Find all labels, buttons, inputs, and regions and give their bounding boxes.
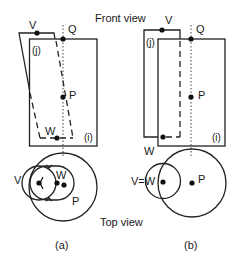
caption-a: (a) [55, 239, 68, 251]
point-q-a [60, 36, 65, 41]
label-body-i-b: (i) [212, 132, 221, 143]
point-v-b [159, 27, 164, 32]
top-point-p-b [189, 180, 194, 185]
body-j-a [19, 33, 73, 138]
top-point-p-a [61, 182, 66, 187]
top-view-label: Top view [100, 216, 143, 228]
point-p-b [188, 94, 193, 99]
top-view-a: V W P [14, 153, 97, 221]
contact-diagram: Front view Top view V Q P W (j) (i) [0, 0, 235, 268]
top-view-b: V=W P [131, 149, 226, 217]
top-point-vw-b [160, 179, 165, 184]
top-label-p-b: P [198, 173, 205, 185]
label-body-j-a: (j) [32, 45, 41, 56]
top-point-w-a [54, 180, 59, 185]
label-body-i-a: (i) [84, 132, 93, 143]
label-body-j-b: (j) [146, 37, 155, 48]
label-p-a: P [69, 89, 76, 101]
label-q-a: Q [68, 23, 77, 35]
panel-b: V Q P W (j) (i) V=W P (b) [131, 14, 226, 251]
point-v-a [34, 30, 39, 35]
point-q-b [188, 36, 193, 41]
top-label-w-a: W [56, 169, 67, 181]
label-v-a: V [29, 19, 37, 31]
label-p-b: P [198, 89, 205, 101]
point-p-a [60, 94, 65, 99]
point-w-b [160, 134, 165, 139]
label-q-b: Q [196, 23, 205, 35]
label-w-a: W [45, 125, 56, 137]
label-w-b: W [144, 145, 155, 157]
caption-b: (b) [184, 239, 197, 251]
panel-a: V Q P W (j) (i) V W P (a) [14, 19, 97, 251]
top-point-v-a [36, 180, 41, 185]
top-label-v-a: V [14, 174, 22, 186]
top-label-p-a: P [72, 195, 79, 207]
top-label-vw-b: V=W [131, 175, 156, 187]
label-v-b: V [165, 14, 173, 26]
front-view-label: Front view [95, 12, 146, 24]
